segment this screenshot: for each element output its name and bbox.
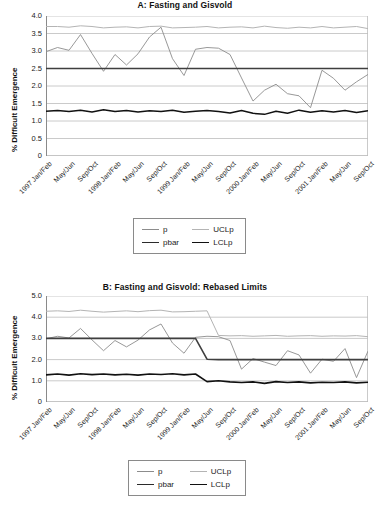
legend-swatch-line-icon bbox=[192, 242, 209, 243]
y-tick-label: 1.0 bbox=[8, 116, 42, 125]
legend-swatch-line-icon bbox=[192, 229, 209, 230]
legend-item: pbar bbox=[137, 480, 180, 489]
legend-label: UCLp bbox=[213, 225, 233, 234]
y-tick-label: 1.5 bbox=[8, 99, 42, 108]
y-tick-label: 4.0 bbox=[8, 312, 42, 321]
legend-label: LCLp bbox=[211, 480, 230, 489]
y-tick-label: 0.5 bbox=[8, 134, 42, 143]
legend-label: p bbox=[158, 467, 162, 476]
chart-b-plot-area bbox=[46, 296, 368, 402]
series-line-lclp bbox=[46, 374, 368, 384]
legend-label: p bbox=[163, 225, 167, 234]
legend-item: UCLp bbox=[190, 467, 237, 476]
legend-item: LCLp bbox=[190, 480, 237, 489]
chart-a-plot-area bbox=[46, 16, 368, 156]
chart-a-legend: pUCLppbarLCLp bbox=[133, 218, 246, 254]
legend-label: LCLp bbox=[213, 238, 232, 247]
legend-swatch-line-icon bbox=[137, 484, 154, 485]
legend-swatch-line-icon bbox=[190, 471, 207, 472]
y-tick-label: 5.0 bbox=[8, 291, 42, 300]
y-tick-label: 1.0 bbox=[8, 376, 42, 385]
y-tick-label: 2.0 bbox=[8, 81, 42, 90]
y-tick-label: 0 bbox=[8, 397, 42, 406]
y-tick-label: 4.0 bbox=[8, 11, 42, 20]
y-tick-label: 0 bbox=[8, 151, 42, 160]
legend-item: p bbox=[142, 225, 182, 234]
series-line-uclp bbox=[46, 26, 368, 29]
legend-item: pbar bbox=[142, 238, 182, 247]
chart-b-title: B: Fasting and Gisvold: Rebased Limits bbox=[0, 282, 370, 292]
legend-label: UCLp bbox=[211, 467, 231, 476]
series-line-p bbox=[46, 27, 368, 108]
x-tick-label: Sep/Oct bbox=[326, 406, 375, 455]
chart-panel-a: A: Fasting and Gisvold % Difficult Emerg… bbox=[0, 0, 370, 278]
legend-label: pbar bbox=[163, 238, 179, 247]
x-tick-label: Sep/Oct bbox=[326, 160, 375, 209]
legend-label: pbar bbox=[158, 480, 174, 489]
series-line-uclp bbox=[46, 310, 368, 337]
series-line-lclp bbox=[46, 110, 368, 115]
legend-swatch-line-icon bbox=[142, 242, 159, 243]
legend-swatch-line-icon bbox=[137, 471, 154, 472]
chart-b-legend: pUCLppbarLCLp bbox=[128, 460, 246, 496]
chart-panel-b: B: Fasting and Gisvold: Rebased Limits %… bbox=[0, 282, 370, 514]
legend-item: LCLp bbox=[192, 238, 237, 247]
chart-a-title: A: Fasting and Gisvold bbox=[0, 0, 370, 10]
y-tick-label: 2.0 bbox=[8, 355, 42, 364]
legend-swatch-line-icon bbox=[190, 484, 207, 485]
series-line-p bbox=[46, 324, 368, 378]
y-tick-label: 3.0 bbox=[8, 333, 42, 342]
y-tick-label: 3.0 bbox=[8, 46, 42, 55]
legend-item: p bbox=[137, 467, 180, 476]
y-tick-label: 2.5 bbox=[8, 64, 42, 73]
legend-item: UCLp bbox=[192, 225, 237, 234]
y-tick-label: 3.5 bbox=[8, 29, 42, 38]
legend-swatch-line-icon bbox=[142, 229, 159, 230]
